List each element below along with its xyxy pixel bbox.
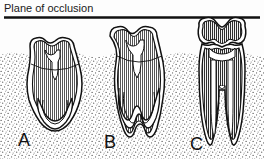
dental-eruption-figure: A B C bbox=[0, 0, 264, 159]
plane-of-occlusion-label: Plane of occlusion bbox=[4, 2, 93, 14]
stage-label-a: A bbox=[18, 130, 30, 150]
tooth-c-root-canal-distal bbox=[228, 60, 233, 135]
stage-label-b: B bbox=[104, 132, 116, 152]
tooth-c-root-canal-mesial bbox=[211, 60, 216, 135]
stage-label-c: C bbox=[190, 134, 203, 154]
figure-canvas: A B C bbox=[0, 0, 264, 159]
